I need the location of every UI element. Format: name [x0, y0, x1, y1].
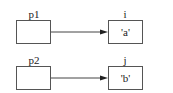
arrow-p2-to-j	[51, 76, 108, 81]
arrow-p1-to-i	[51, 30, 108, 35]
arrows-layer	[0, 0, 173, 93]
